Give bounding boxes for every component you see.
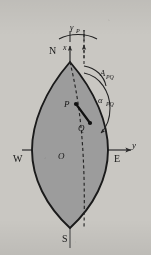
label-point-p: P — [63, 99, 70, 109]
label-origin: O — [58, 151, 65, 161]
label-azimuth-subscript: PQ — [105, 74, 115, 80]
point-q-marker — [88, 121, 92, 125]
label-west: W — [13, 153, 23, 164]
label-x-axis: x — [62, 43, 67, 52]
geodesic-spheroid-diagram: N x S W E O y P Q γ P A PQ α PQ — [0, 0, 151, 255]
label-y-axis: y — [131, 140, 136, 150]
label-gamma-subscript: P — [75, 28, 80, 34]
label-south-pole: S — [62, 233, 68, 244]
label-alpha-subscript: PQ — [105, 101, 115, 107]
label-east: E — [114, 153, 120, 164]
label-azimuth: A — [99, 68, 106, 78]
figure-container: N x S W E O y P Q γ P A PQ α PQ — [0, 0, 151, 255]
label-point-q: Q — [78, 123, 85, 133]
label-north-pole: N — [49, 45, 56, 56]
point-p-marker — [74, 102, 78, 106]
label-alpha: α — [98, 95, 103, 105]
